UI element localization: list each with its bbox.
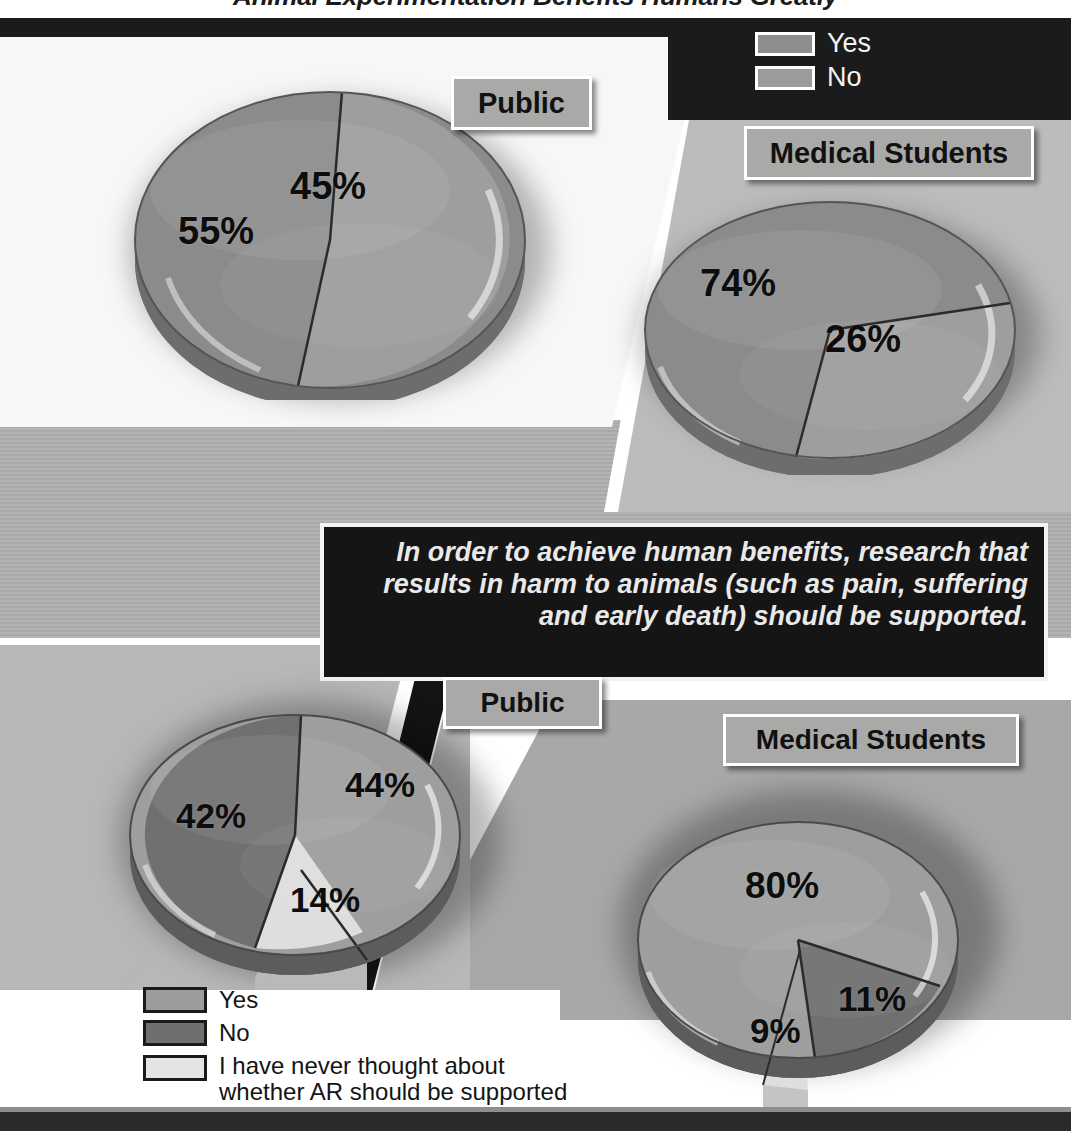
legend-item[interactable]: No	[143, 1020, 567, 1046]
legend-swatch-never-thought-icon	[143, 1055, 207, 1081]
legend-label-line1: I have never thought about	[219, 1052, 505, 1079]
legend-swatch-yes-icon	[755, 32, 815, 56]
pie-3-value-never: 14%	[290, 880, 360, 920]
pie-1-value-no: 55%	[178, 210, 254, 253]
legend-top: Yes No	[755, 30, 871, 98]
legend-item[interactable]: Yes	[143, 987, 567, 1013]
legend-label: No	[827, 64, 862, 91]
legend-label: Yes	[219, 987, 258, 1013]
page-title: Animal Experimentation Benefits Humans G…	[0, 0, 1071, 12]
legend-swatch-yes-icon	[143, 987, 207, 1013]
pie-1-value-yes: 45%	[290, 165, 366, 208]
panel-label-public-bottom[interactable]: Public	[443, 677, 602, 729]
legend-item[interactable]: No	[755, 64, 871, 91]
pie-chart-medstudents-support	[610, 800, 1010, 1110]
pie-2-value-no: 26%	[825, 318, 901, 361]
legend-swatch-no-icon	[143, 1020, 207, 1046]
legend-item[interactable]: Yes	[755, 30, 871, 57]
pie-3-value-no: 42%	[176, 796, 246, 836]
panel-label-public-top[interactable]: Public	[451, 76, 592, 130]
legend-bottom: Yes No I have never thought about whethe…	[143, 987, 567, 1112]
statement-box: In order to achieve human benefits, rese…	[320, 523, 1048, 681]
panel-label-medstudents-top[interactable]: Medical Students	[744, 126, 1034, 180]
pie-4-value-never: 9%	[750, 1011, 801, 1051]
bottom-band-highlight	[0, 1107, 1071, 1112]
panel-label-medstudents-bottom[interactable]: Medical Students	[723, 714, 1019, 766]
legend-label: No	[219, 1020, 250, 1046]
pie-2-value-yes: 74%	[700, 262, 776, 305]
legend-label-multiline: I have never thought about whether AR sh…	[219, 1053, 567, 1105]
pie-3-value-yes: 44%	[345, 765, 415, 805]
pie-4-value-yes: 80%	[745, 865, 819, 907]
legend-label-line2: whether AR should be supported	[219, 1078, 567, 1105]
legend-label: Yes	[827, 30, 871, 57]
poster-figure: Animal Experimentation Benefits Humans G…	[0, 0, 1071, 1131]
pie-4-value-no: 11%	[838, 979, 906, 1019]
legend-item[interactable]: I have never thought about whether AR sh…	[143, 1053, 567, 1105]
legend-swatch-no-icon	[755, 66, 815, 90]
